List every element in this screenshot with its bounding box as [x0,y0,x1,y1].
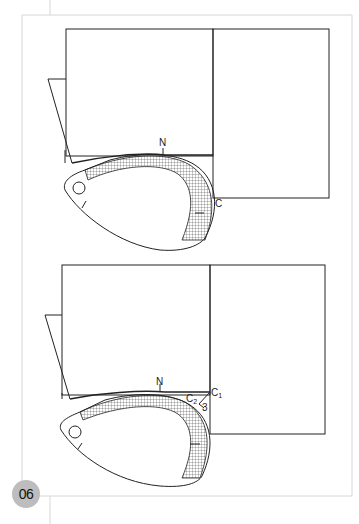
pattern-diagrams: N C N C1 C2 3 [0,0,359,524]
page-number-badge: 06 [12,480,40,508]
figure-top [48,29,329,250]
label-n-bottom: N [156,376,163,387]
label-c1: C1 [211,387,222,399]
figure-bottom [45,265,325,486]
label-dimension-3: 3 [202,402,208,413]
label-c-top: C [215,198,222,209]
page-frame [22,0,352,524]
label-n-top: N [159,137,166,148]
diagram-page: N C N C1 C2 3 06 [0,0,359,524]
